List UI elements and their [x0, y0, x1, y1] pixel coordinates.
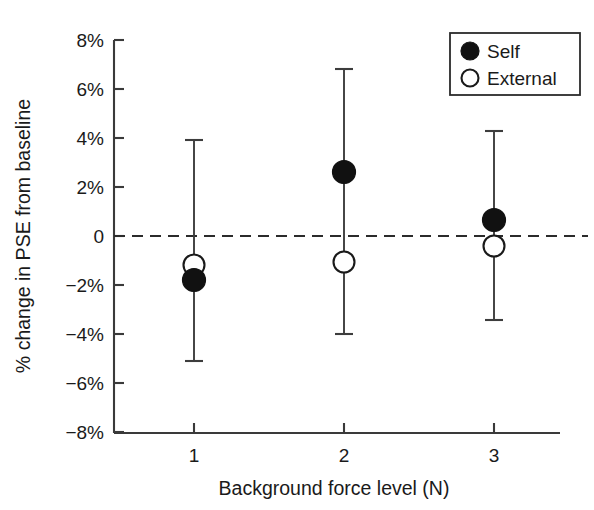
marker-self-3: [483, 209, 506, 232]
y-tick-label-0: 0: [93, 226, 104, 247]
x-tick-label-1: 1: [189, 445, 200, 466]
marker-self-1: [183, 269, 206, 292]
marker-self-2: [333, 161, 356, 184]
data-group-force-2: [333, 69, 356, 334]
x-tick-label-2: 2: [339, 445, 350, 466]
y-tick-label-neg6: −6%: [65, 373, 104, 394]
y-tick-label-6: 6%: [77, 79, 105, 100]
marker-external-3: [484, 236, 505, 257]
y-tick-label-neg8: −8%: [65, 422, 104, 443]
legend-label-self: Self: [487, 41, 520, 62]
chart-figure: 8% 6% 4% 2% 0 −2% −4% −6% −8% 1 2 3: [0, 0, 594, 510]
x-axis-title: Background force level (N): [219, 477, 450, 499]
legend: Self External: [450, 33, 580, 95]
y-axis-title: % change in PSE from baseline: [12, 99, 34, 373]
y-tick-label-neg2: −2%: [65, 275, 104, 296]
legend-marker-self-icon: [461, 42, 479, 60]
marker-external-2: [334, 252, 355, 273]
y-tick-label-4: 4%: [77, 128, 105, 149]
y-tick-label-neg4: −4%: [65, 324, 104, 345]
data-group-force-3: [483, 131, 506, 320]
plot-canvas: 8% 6% 4% 2% 0 −2% −4% −6% −8% 1 2 3: [0, 0, 594, 510]
y-tick-label-8: 8%: [77, 30, 105, 51]
data-group-force-1: [183, 140, 206, 361]
x-tick-marks: [194, 423, 494, 433]
legend-label-external: External: [487, 68, 557, 89]
x-tick-label-3: 3: [489, 445, 500, 466]
y-tick-label-2: 2%: [77, 177, 105, 198]
legend-marker-external-icon: [462, 70, 479, 87]
